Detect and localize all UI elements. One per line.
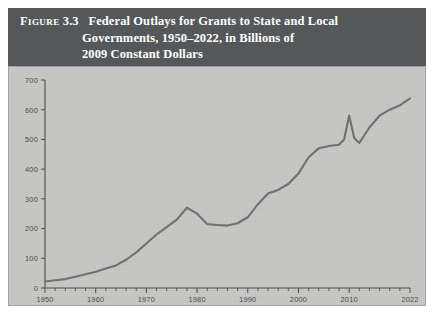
figure-title-line-1: Federal Outlays for Grants to State and … bbox=[88, 14, 338, 28]
x-tick-label: 1980 bbox=[188, 295, 205, 304]
x-axis-labels: 19501960197019801990200020102022 bbox=[36, 295, 418, 304]
y-axis-labels: 0100200300400500600700 bbox=[25, 76, 38, 293]
x-tick-label: 1970 bbox=[138, 295, 155, 304]
figure-title-band: Figure 3.3 Federal Outlays for Grants to… bbox=[8, 8, 426, 66]
figure-title: Figure 3.3 Federal Outlays for Grants to… bbox=[20, 13, 420, 63]
x-tick-label: 2010 bbox=[341, 295, 358, 304]
y-tick-label: 0 bbox=[34, 284, 38, 293]
figure-title-line-2: Governments, 1950–2022, in Billions of bbox=[20, 30, 420, 47]
figure-label: Figure bbox=[20, 14, 60, 28]
x-tick-label: 1950 bbox=[36, 295, 53, 304]
y-tick-label: 300 bbox=[25, 195, 38, 204]
line-chart: 0100200300400500600700 19501960197019801… bbox=[8, 66, 426, 306]
y-tick-label: 700 bbox=[25, 76, 38, 85]
x-tick-label: 1990 bbox=[239, 295, 256, 304]
figure-number: 3.3 bbox=[63, 14, 79, 28]
y-tick-label: 600 bbox=[25, 106, 38, 115]
y-tick-label: 200 bbox=[25, 224, 38, 233]
y-tick-label: 500 bbox=[25, 135, 38, 144]
x-tick-label: 2000 bbox=[290, 295, 307, 304]
x-tick-label: 1960 bbox=[87, 295, 104, 304]
y-axis-ticks bbox=[41, 80, 45, 288]
figure-container: Figure 3.3 Federal Outlays for Grants to… bbox=[0, 0, 433, 319]
y-tick-label: 100 bbox=[25, 254, 38, 263]
x-tick-label: 2022 bbox=[401, 295, 418, 304]
chart-plot-panel: 0100200300400500600700 19501960197019801… bbox=[8, 66, 426, 306]
figure-title-line-3: 2009 Constant Dollars bbox=[20, 46, 420, 63]
y-tick-label: 400 bbox=[25, 165, 38, 174]
data-series-line bbox=[45, 98, 410, 281]
